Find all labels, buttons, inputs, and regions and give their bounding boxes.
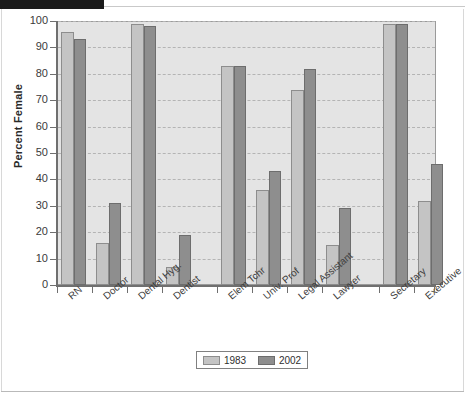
gridline	[58, 74, 435, 75]
gridline	[58, 100, 435, 101]
y-axis-tick	[50, 259, 57, 260]
y-axis-tick-label: 100	[2, 15, 48, 26]
legend-label-1983: 1983	[224, 355, 246, 366]
bar-2002	[74, 39, 87, 285]
y-axis-tick	[50, 179, 57, 180]
x-axis-tick	[92, 287, 93, 293]
y-axis-tick-label: 0	[2, 279, 48, 290]
bar-chart: Percent Female 0102030405060708090100 RN…	[0, 0, 465, 400]
y-axis-tick-label: 40	[2, 173, 48, 184]
bar-2002	[109, 203, 122, 285]
bar-1983	[61, 32, 74, 285]
bar-2002	[339, 208, 352, 285]
y-axis-tick	[50, 285, 57, 286]
bar-2002	[304, 69, 317, 285]
x-axis-tick	[217, 287, 218, 293]
gridline	[58, 47, 435, 48]
legend-label-2002: 2002	[279, 355, 301, 366]
legend-swatch-1983	[203, 356, 220, 365]
x-axis-tick	[127, 287, 128, 293]
gridline	[58, 179, 435, 180]
y-axis-tick-label: 30	[2, 200, 48, 211]
y-axis-tick-label: 80	[2, 68, 48, 79]
bar-1983	[96, 243, 109, 285]
y-axis-tick	[50, 232, 57, 233]
gridline	[58, 153, 435, 154]
bar-2002	[431, 164, 444, 285]
y-axis-tick-label: 20	[2, 226, 48, 237]
x-axis-tick	[414, 287, 415, 293]
y-axis-tick-label: 90	[2, 41, 48, 52]
y-axis-tick-label: 50	[2, 147, 48, 158]
y-axis-tick	[50, 21, 57, 22]
x-axis-tick	[379, 287, 380, 293]
x-axis-tick	[57, 287, 58, 293]
y-axis-tick	[50, 100, 57, 101]
x-axis-tick	[287, 287, 288, 293]
y-axis-tick-labels: 0102030405060708090100	[0, 0, 48, 400]
gridline	[58, 21, 435, 22]
chart-legend: 1983 2002	[196, 351, 308, 369]
y-axis-tick	[50, 127, 57, 128]
x-axis-tick	[252, 287, 253, 293]
x-axis-tick	[434, 287, 435, 293]
y-axis-tick-label: 70	[2, 94, 48, 105]
legend-swatch-2002	[258, 356, 275, 365]
y-axis-tick	[50, 206, 57, 207]
bar-2002	[269, 171, 282, 285]
y-axis-tick-label: 10	[2, 253, 48, 264]
y-axis-tick-label: 60	[2, 121, 48, 132]
bar-1983	[291, 90, 304, 285]
bar-2002	[144, 26, 157, 285]
y-axis-tick	[50, 153, 57, 154]
gridline	[58, 127, 435, 128]
bar-1983	[131, 24, 144, 285]
legend-item-1983: 1983	[203, 355, 246, 366]
x-axis-tick	[162, 287, 163, 293]
bar-2002	[234, 66, 247, 285]
x-axis-tick	[322, 287, 323, 293]
bar-1983	[383, 24, 396, 285]
y-axis-tick	[50, 74, 57, 75]
y-axis-tick	[50, 47, 57, 48]
legend-item-2002: 2002	[258, 355, 301, 366]
bar-1983	[221, 66, 234, 285]
bar-2002	[396, 24, 409, 285]
